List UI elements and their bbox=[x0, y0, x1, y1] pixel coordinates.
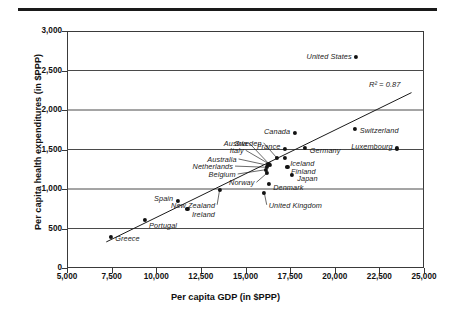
point-label: Canada bbox=[264, 126, 290, 135]
point-label: New Zealand bbox=[171, 200, 215, 209]
point-label: Belgium bbox=[209, 169, 236, 178]
point-label: Luxembourg bbox=[351, 141, 393, 150]
point-label: Denmark bbox=[273, 182, 303, 191]
point-label: Greece bbox=[115, 234, 140, 243]
point-labels-layer: GreecePortugalIrelandSpainNew ZealandUni… bbox=[0, 0, 451, 315]
point-label: France bbox=[257, 141, 280, 150]
point-label: Japan bbox=[297, 173, 317, 182]
chart-figure: 05001,0001,5002,0002,5003,000 5,0007,500… bbox=[0, 0, 451, 315]
r-squared-annotation: R² = 0.87 bbox=[369, 80, 400, 89]
point-label: Switzerland bbox=[360, 126, 399, 135]
point-label: Iceland bbox=[290, 158, 314, 167]
point-label: Norway bbox=[229, 178, 254, 187]
point-label: United Kingdom bbox=[269, 200, 322, 209]
point-label: Germany bbox=[310, 146, 341, 155]
point-label: Portugal bbox=[149, 221, 177, 230]
point-label: Ireland bbox=[192, 209, 215, 218]
x-axis-title: Per capita GDP (in $PPP) bbox=[0, 292, 451, 302]
point-label: Australia bbox=[207, 154, 236, 163]
y-axis-title: Per capita health expenditures (in $PPP) bbox=[33, 27, 43, 257]
point-label: United States bbox=[307, 51, 352, 60]
